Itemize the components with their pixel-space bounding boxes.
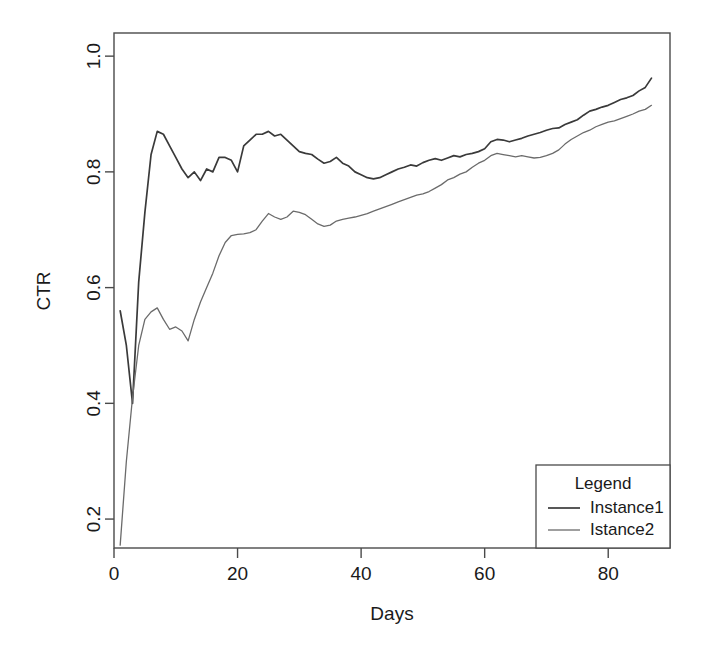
x-axis-tick-labels: 020406080 <box>109 563 619 584</box>
x-axis-ticks <box>114 548 608 558</box>
x-axis-title: Days <box>370 603 413 624</box>
y-tick-label: 0.4 <box>84 390 105 417</box>
legend-label-1: Instance1 <box>590 498 664 517</box>
y-axis-title: CTR <box>33 271 54 310</box>
x-tick-label: 60 <box>474 563 495 584</box>
x-tick-label: 20 <box>227 563 248 584</box>
legend-label-2: Istance2 <box>590 520 654 539</box>
x-tick-label: 40 <box>351 563 372 584</box>
y-tick-label: 0.2 <box>84 506 105 532</box>
chart-figure: 0.20.40.60.81.0 020406080 CTR Days Legen… <box>0 0 704 654</box>
ctr-line-chart: 0.20.40.60.81.0 020406080 CTR Days Legen… <box>0 0 704 654</box>
series-line-1 <box>120 78 651 403</box>
y-tick-label: 1.0 <box>84 43 105 69</box>
y-axis-ticks <box>105 56 114 519</box>
y-axis-tick-labels: 0.20.40.60.81.0 <box>84 43 105 532</box>
chart-legend: Legend Instance1Istance2 <box>536 465 670 548</box>
x-tick-label: 0 <box>109 563 120 584</box>
y-tick-label: 0.6 <box>84 274 105 300</box>
legend-title: Legend <box>575 474 632 493</box>
x-tick-label: 80 <box>598 563 619 584</box>
y-tick-label: 0.8 <box>84 159 105 185</box>
